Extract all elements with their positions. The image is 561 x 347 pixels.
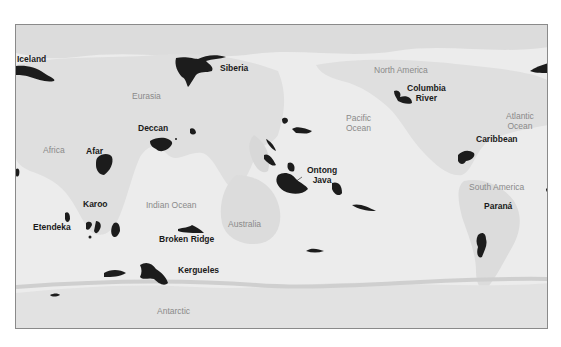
label-parana: Paraná — [484, 201, 512, 211]
label-afar: Afar — [86, 146, 103, 156]
world-map: Eurasia Africa Indian Ocean Australia An… — [15, 24, 548, 329]
label-atlantic-line1: Atlantic — [506, 111, 534, 121]
label-north-america: North America — [374, 65, 428, 75]
label-siberia: Siberia — [220, 63, 248, 73]
label-ontong-java: Ontong Java — [307, 165, 337, 185]
label-africa: Africa — [43, 145, 65, 155]
label-columbia-line1: Columbia — [407, 83, 446, 93]
label-deccan: Deccan — [138, 123, 168, 133]
label-antarctic: Antarctic — [157, 306, 190, 316]
label-columbia-line2: River — [407, 93, 446, 103]
map-graphic — [16, 25, 548, 329]
label-caribbean: Caribbean — [476, 134, 518, 144]
label-atlantic-line2: Ocean — [506, 121, 534, 131]
label-etendeka: Etendeka — [33, 222, 71, 232]
label-broken-ridge: Broken Ridge — [159, 234, 214, 244]
label-eurasia: Eurasia — [132, 91, 161, 101]
label-pacific-ocean: Pacific Ocean — [346, 113, 371, 133]
label-iceland: Iceland — [17, 54, 46, 64]
label-indian-ocean: Indian Ocean — [146, 200, 197, 210]
label-atlantic-ocean: Atlantic Ocean — [506, 111, 534, 131]
label-karoo: Karoo — [83, 199, 108, 209]
label-columbia-river: Columbia River — [407, 83, 446, 103]
label-ontong-line1: Ontong — [307, 165, 337, 175]
label-australia: Australia — [228, 219, 261, 229]
label-pacific-line1: Pacific — [346, 113, 371, 123]
label-kergueles: Kergueles — [178, 265, 219, 275]
label-south-america: South America — [469, 182, 524, 192]
label-ontong-line2: Java — [307, 175, 337, 185]
label-pacific-line2: Ocean — [346, 123, 371, 133]
land-antarctica — [16, 283, 548, 329]
